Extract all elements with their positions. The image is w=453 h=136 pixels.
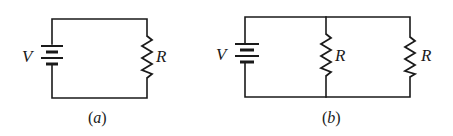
resistor-icon [142,36,152,78]
circuit-a: V R (a) [22,19,167,127]
circuit-b: V R R (b) [216,17,432,127]
resistor-icon [405,37,415,77]
resistor-label-b-2: R [420,46,432,65]
source-label-b: V [216,45,229,64]
battery-icon [235,44,259,62]
panel-caption-a: (a) [88,109,107,127]
resistor-label-a: R [155,47,167,66]
circuit-a-wire-left-top [52,19,147,44]
battery-icon [41,46,63,64]
circuit-a-wire-left-bottom [52,64,147,98]
source-label-a: V [22,47,35,66]
resistor-label-b-1: R [334,46,346,65]
circuit-b-wire-bottom [245,62,410,97]
circuit-figure: V R (a) V R R (b) [0,0,453,136]
resistor-icon [321,34,331,76]
panel-caption-b: (b) [322,109,341,127]
